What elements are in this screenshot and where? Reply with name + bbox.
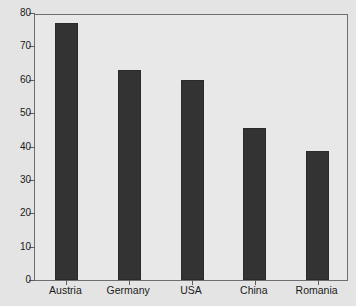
y-tick-label: 50	[20, 108, 31, 118]
y-tick-label: 20	[20, 208, 31, 218]
bar-austria	[55, 23, 78, 280]
bar-china	[243, 128, 266, 280]
x-axis-label: China	[240, 285, 267, 296]
x-axis-label: Austria	[49, 285, 82, 296]
x-axis-label: USA	[180, 285, 202, 296]
bar-romania	[306, 151, 329, 280]
bar-usa	[181, 80, 204, 280]
y-tick-label: 70	[20, 41, 31, 51]
bar-chart: 01020304050607080 AustriaGermanyUSAChina…	[0, 0, 356, 306]
y-tick-label: 10	[20, 242, 31, 252]
y-tick-label: 0	[25, 275, 31, 285]
x-axis-label: Romania	[296, 285, 338, 296]
y-tick-label: 40	[20, 142, 31, 152]
x-axis-label: Germany	[107, 285, 150, 296]
y-tick-label: 30	[20, 175, 31, 185]
y-tick-label: 80	[20, 8, 31, 18]
bar-germany	[118, 70, 141, 280]
y-tick-label: 60	[20, 75, 31, 85]
plot-area: 01020304050607080	[34, 14, 348, 281]
